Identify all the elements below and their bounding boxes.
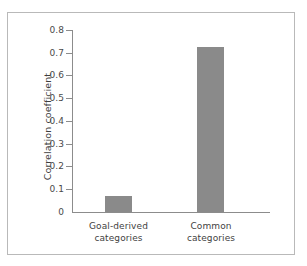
y-tick-label-wrap: 0.2 xyxy=(20,162,64,171)
y-tick-label: 0.2 xyxy=(24,162,64,171)
y-tick-mark xyxy=(66,30,72,31)
y-tick-label: 0.6 xyxy=(24,71,64,80)
y-tick-mark xyxy=(66,144,72,145)
y-tick-label: 0.5 xyxy=(24,94,64,103)
y-tick-label: 0 xyxy=(24,208,64,217)
y-tick-mark xyxy=(66,53,72,54)
y-tick-mark xyxy=(66,75,72,76)
bar-common-categories xyxy=(197,47,224,212)
x-axis-line xyxy=(72,212,270,213)
y-tick-label: 0.8 xyxy=(24,26,64,35)
x-tick-label-goal-derived-categories: Goal-derived categories xyxy=(78,221,159,244)
y-tick-mark xyxy=(66,98,72,99)
y-tick-label-wrap: 0.3 xyxy=(20,140,64,149)
y-tick-label-wrap: 0.5 xyxy=(20,94,64,103)
x-label-line-2: categories xyxy=(78,233,159,245)
x-label-line-1: Goal-derived xyxy=(78,221,159,233)
y-tick-label: 0.7 xyxy=(24,49,64,58)
y-tick-label-wrap: 0.1 xyxy=(20,185,64,194)
x-label-line-2: categories xyxy=(172,233,250,245)
x-label-line-1: Common xyxy=(172,221,250,233)
bar-goal-derived-categories xyxy=(105,196,132,212)
y-tick-label: 0.4 xyxy=(24,117,64,126)
x-tick-label-common-categories: Common categories xyxy=(172,221,250,244)
plot-area: Correlation coefficient 0.8 0.7 0.6 0.5 … xyxy=(0,0,307,266)
y-tick-label: 0.3 xyxy=(24,140,64,149)
y-tick-label-wrap: 0.7 xyxy=(20,49,64,58)
y-tick-mark xyxy=(66,189,72,190)
y-tick-mark xyxy=(66,166,72,167)
figure: Correlation coefficient 0.8 0.7 0.6 0.5 … xyxy=(0,0,307,266)
y-tick-label-wrap: 0.8 xyxy=(20,26,64,35)
y-tick-label-wrap: 0 xyxy=(20,208,64,217)
y-tick-mark xyxy=(66,121,72,122)
y-tick-label-wrap: 0.6 xyxy=(20,71,64,80)
y-axis-line xyxy=(72,30,73,213)
y-tick-label-wrap: 0.4 xyxy=(20,117,64,126)
y-tick-label: 0.1 xyxy=(24,185,64,194)
